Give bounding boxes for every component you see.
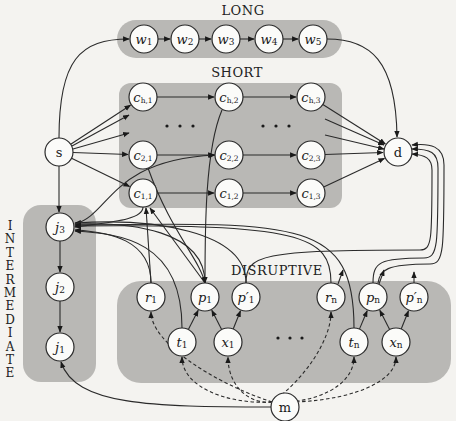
node-xn: xn — [382, 328, 410, 356]
node-w1: w1 — [130, 25, 158, 53]
node-ch1: ch,1 — [129, 83, 157, 111]
node-j2: j2 — [46, 273, 74, 301]
node-j1: j1 — [46, 333, 74, 361]
node-c12: c1,2 — [215, 179, 243, 207]
node-rn: rn — [317, 283, 345, 311]
node-w3: w3 — [212, 25, 240, 53]
node-j3: j3 — [46, 213, 74, 241]
node-s: s — [45, 138, 73, 166]
long-label: LONG — [221, 3, 264, 18]
node-c11: c1,1 — [129, 179, 157, 207]
node-c23: c2,3 — [297, 141, 325, 169]
node-p1: p1 — [191, 283, 219, 311]
edge-pn-d-2 — [378, 144, 444, 283]
node-ch3: ch,3 — [297, 83, 325, 111]
node-ch2: ch,2 — [215, 83, 243, 111]
node-x1: x1 — [214, 328, 242, 356]
node-w2: w2 — [171, 25, 199, 53]
intermediate-label: INTERMEDIATE — [4, 219, 16, 380]
node-tn: tn — [340, 328, 368, 356]
node-pp1: p′1 — [232, 283, 260, 311]
edge-pn-d — [373, 149, 438, 283]
disruptive-label: DISRUPTIVE — [231, 263, 323, 278]
edge-r1-c11 — [146, 208, 151, 283]
node-c21: c2,1 — [129, 141, 157, 169]
node-c22: c2,2 — [215, 141, 243, 169]
node-pn: pn — [359, 283, 387, 311]
edge-pp1-j3 — [75, 222, 246, 283]
node-label: s — [56, 145, 63, 160]
short-label: SHORT — [211, 65, 263, 80]
node-w4: w4 — [255, 25, 283, 53]
node-label: m — [279, 400, 291, 415]
node-r1: r1 — [137, 283, 165, 311]
diagram: LONG SHORT INTERMEDIATE DISRUPTIVE w1w2w… — [0, 0, 456, 421]
node-m: m — [271, 393, 299, 421]
node-d: d — [384, 138, 412, 166]
edge-p1-c11 — [150, 208, 205, 283]
edge-s-w1 — [59, 39, 129, 138]
node-w5: w5 — [299, 25, 327, 53]
node-c13: c1,3 — [297, 179, 325, 207]
node-t1: t1 — [168, 328, 196, 356]
node-ppn: p′n — [400, 283, 428, 311]
node-label: d — [394, 145, 402, 160]
